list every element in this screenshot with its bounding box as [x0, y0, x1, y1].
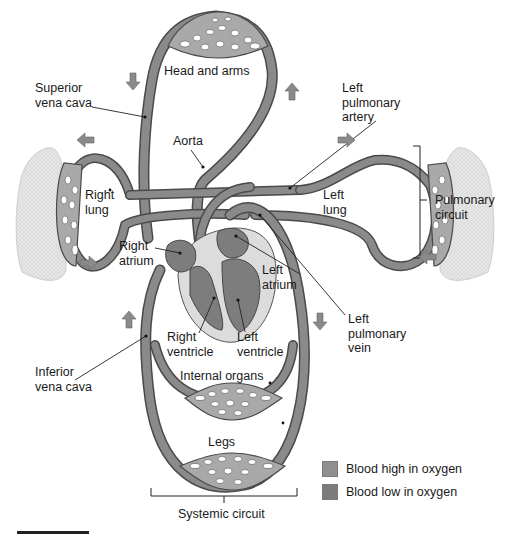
label-head-and-arms: Head and arms — [164, 64, 249, 79]
label-right-lung: Right lung — [85, 188, 114, 217]
label-pulmonary-circuit: Pulmonary circuit — [435, 193, 495, 222]
legend-swatch-low-oxygen — [322, 484, 338, 500]
heart — [166, 228, 276, 342]
label-left-lung: Left lung — [323, 188, 347, 217]
legend-label-low-oxygen: Blood low in oxygen — [346, 485, 457, 499]
arrow-down-icon — [126, 73, 140, 90]
arrow-left-icon — [77, 133, 94, 147]
label-left-pulmonary-vein: Left pulmonary vein — [348, 312, 406, 356]
label-left-ventricle: Left ventricle — [237, 330, 284, 359]
arrow-up-icon — [122, 311, 136, 328]
pulmonary-circuit-bracket — [413, 146, 427, 258]
legend-label-high-oxygen: Blood high in oxygen — [346, 462, 462, 476]
label-internal-organs: Internal organs — [180, 369, 263, 384]
label-legs: Legs — [208, 435, 235, 450]
capillary-bed-head-arms — [168, 12, 268, 58]
label-superior-vena-cava: Superior vena cava — [35, 81, 92, 110]
label-left-atrium: Left atrium — [262, 263, 297, 292]
arrow-up-icon — [285, 83, 299, 100]
legend-item-high-oxygen: Blood high in oxygen — [322, 461, 462, 477]
legend-swatch-high-oxygen — [322, 461, 338, 477]
label-systemic-circuit: Systemic circuit — [178, 507, 265, 522]
label-right-ventricle: Right ventricle — [167, 330, 214, 359]
label-inferior-vena-cava: Inferior vena cava — [35, 365, 92, 394]
label-aorta: Aorta — [173, 134, 203, 149]
label-right-atrium: Right atrium — [119, 239, 154, 268]
label-left-pulmonary-artery: Left pulmonary artery — [342, 81, 400, 125]
legend-item-low-oxygen: Blood low in oxygen — [322, 484, 457, 500]
circulation-diagram: Head and arms Superior vena cava Aorta L… — [0, 0, 511, 534]
right-atrium-chamber — [166, 240, 196, 272]
arrow-down-icon — [313, 313, 327, 330]
arrow-right-icon — [338, 133, 355, 147]
